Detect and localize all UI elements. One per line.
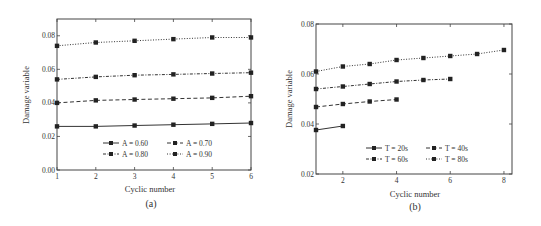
data-point-marker — [249, 70, 253, 74]
data-point-marker — [421, 56, 425, 60]
legend-label: T = 60s — [385, 155, 408, 164]
data-point-marker — [94, 75, 98, 79]
x-tick-label: 8 — [502, 176, 506, 185]
data-point-marker — [171, 72, 175, 76]
x-tick-label: 5 — [210, 172, 214, 181]
series-line — [57, 123, 251, 126]
chart-b-y-axis-title: Damage variable — [284, 70, 294, 128]
chart-a-y-axis-title: Damage variable — [21, 66, 31, 124]
data-point-marker — [341, 64, 345, 68]
legend-marker — [109, 141, 113, 145]
legend-marker — [173, 152, 177, 156]
y-tick-label: 0.02 — [301, 170, 314, 179]
y-tick-label: 0.06 — [42, 65, 55, 74]
data-point-marker — [55, 101, 59, 105]
x-tick-label: 6 — [448, 176, 452, 185]
data-point-marker — [249, 94, 253, 98]
chart-b: 24680.020.040.060.08T = 20sT = 40sT = 60… — [301, 20, 512, 186]
data-point-marker — [448, 54, 452, 58]
data-point-marker — [94, 98, 98, 102]
y-tick-label: 0.08 — [301, 20, 314, 29]
data-point-marker — [367, 82, 371, 86]
legend-marker — [173, 141, 177, 145]
series-line — [57, 73, 251, 80]
series-line — [316, 79, 450, 89]
legend-label: T = 40s — [445, 144, 468, 153]
data-point-marker — [249, 121, 253, 125]
data-point-marker — [132, 97, 136, 101]
data-point-marker — [314, 87, 318, 91]
data-point-marker — [55, 77, 59, 81]
y-tick-label: 0.00 — [42, 166, 55, 175]
y-tick-label: 0.08 — [42, 31, 55, 40]
y-tick-label: 0.04 — [42, 98, 55, 107]
legend-label: A = 0.80 — [122, 150, 148, 159]
data-point-marker — [394, 97, 398, 101]
x-tick-label: 1 — [55, 172, 59, 181]
data-point-marker — [171, 37, 175, 41]
data-point-marker — [171, 123, 175, 127]
chart-a: 1234560.000.020.040.060.08A = 0.60A = 0.… — [42, 19, 253, 181]
legend-marker — [109, 152, 113, 156]
data-point-marker — [502, 48, 506, 52]
chart-a-caption: (a) — [145, 198, 156, 210]
chart-a-x-axis-title: Cyclic number — [125, 184, 175, 194]
data-point-marker — [210, 122, 214, 126]
data-point-marker — [475, 52, 479, 56]
data-point-marker — [210, 71, 214, 75]
data-point-marker — [394, 58, 398, 62]
data-point-marker — [210, 96, 214, 100]
legend-marker — [432, 157, 436, 161]
legend-label: A = 0.90 — [186, 150, 212, 159]
data-point-marker — [94, 124, 98, 128]
x-tick-label: 4 — [172, 172, 176, 181]
data-point-marker — [171, 96, 175, 100]
legend: A = 0.60A = 0.70A = 0.80A = 0.90 — [103, 139, 212, 159]
legend-label: T = 80s — [445, 155, 468, 164]
figure: 1234560.000.020.040.060.08A = 0.60A = 0.… — [0, 0, 541, 226]
data-point-marker — [421, 78, 425, 82]
data-point-marker — [394, 79, 398, 83]
legend-marker — [432, 146, 436, 150]
series-line — [316, 100, 397, 108]
plot-frame — [316, 24, 512, 174]
data-point-marker — [367, 99, 371, 103]
data-point-marker — [314, 69, 318, 73]
data-point-marker — [94, 40, 98, 44]
legend-label: A = 0.70 — [186, 139, 212, 148]
data-point-marker — [249, 35, 253, 39]
y-tick-label: 0.04 — [301, 120, 314, 129]
x-tick-label: 6 — [249, 172, 253, 181]
x-tick-label: 3 — [133, 172, 137, 181]
plot-frame — [57, 19, 251, 170]
x-tick-label: 2 — [341, 176, 345, 185]
data-point-marker — [341, 102, 345, 106]
x-tick-label: 2 — [94, 172, 98, 181]
data-point-marker — [448, 77, 452, 81]
data-point-marker — [367, 62, 371, 66]
data-point-marker — [55, 44, 59, 48]
data-point-marker — [341, 84, 345, 88]
y-tick-label: 0.06 — [301, 70, 314, 79]
series-line — [57, 96, 251, 103]
chart-b-caption: (b) — [409, 201, 421, 213]
data-point-marker — [55, 124, 59, 128]
data-point-marker — [341, 124, 345, 128]
data-point-marker — [314, 128, 318, 132]
y-tick-label: 0.02 — [42, 132, 55, 141]
data-point-marker — [210, 35, 214, 39]
legend: T = 20sT = 40sT = 60sT = 80s — [366, 144, 468, 164]
data-point-marker — [314, 105, 318, 109]
legend-marker — [372, 157, 376, 161]
data-point-marker — [132, 123, 136, 127]
series-line — [57, 38, 251, 46]
chart-b-x-axis-title: Cyclic number — [390, 189, 440, 199]
data-point-marker — [132, 73, 136, 77]
x-tick-label: 4 — [395, 176, 399, 185]
legend-label: A = 0.60 — [122, 139, 148, 148]
data-point-marker — [132, 39, 136, 43]
series-line — [316, 126, 343, 130]
legend-label: T = 20s — [385, 144, 408, 153]
legend-marker — [372, 146, 376, 150]
